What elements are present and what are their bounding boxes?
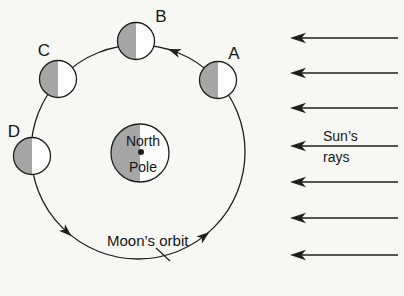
moon-c-shaded-half [40, 61, 59, 98]
moon-d-shaded-half [14, 138, 33, 175]
earth-label-pole: Pole [129, 159, 157, 175]
orbit-direction-arrow [196, 232, 209, 244]
moon-c: C [38, 41, 77, 98]
north-pole-dot [138, 149, 144, 155]
sun-rays-label-line1: Sun’s [323, 128, 358, 144]
earth-label-north: North [126, 133, 160, 149]
diagram-canvas: ABCD North Pole Sun’s rays Moon’s orbit [0, 0, 404, 296]
moon-label-c: C [38, 41, 50, 60]
sun-ray-arrow [290, 250, 398, 261]
sun-ray-arrow [290, 68, 398, 79]
sun-rays-group [290, 33, 398, 261]
moon-label-d: D [8, 122, 20, 141]
moon-label-b: B [155, 7, 166, 26]
moon-label-a: A [228, 44, 240, 63]
sun-ray-arrow [290, 177, 398, 188]
moon-a: A [200, 44, 241, 99]
moon-orbit-label: Moon’s orbit [107, 232, 189, 249]
sun-rays-label-line2: rays [323, 149, 349, 165]
moon-b-shaded-half [118, 23, 136, 60]
moon-orbit-diagram: ABCD North Pole Sun’s rays Moon’s orbit [0, 0, 404, 296]
moon-b: B [118, 7, 167, 60]
moon-d: D [8, 122, 51, 175]
sun-ray-arrow [290, 103, 398, 114]
sun-ray-arrow [290, 213, 398, 224]
sun-ray-arrow [290, 33, 398, 44]
